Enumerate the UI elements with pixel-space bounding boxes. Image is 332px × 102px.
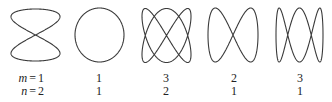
lissajous-curve-m2-n1	[208, 8, 258, 62]
lissajous-curve-m3-n1	[276, 8, 323, 62]
m-value-3: 3	[163, 71, 169, 85]
n-value-5: 1	[297, 84, 303, 98]
curves-group	[11, 8, 323, 63]
labels-group: m=1 n=2 1 1 3 2 2 1 3 1	[19, 71, 303, 98]
n-value-2: 1	[96, 84, 102, 98]
n-value-3: 2	[163, 84, 169, 98]
m-value-5: 3	[297, 71, 303, 85]
lissajous-figures: m=1 n=2 1 1 3 2 2 1 3 1	[0, 0, 332, 102]
m-value-4: 2	[231, 71, 237, 85]
n-value-4: 1	[231, 84, 237, 98]
lissajous-curve-m1-n1	[75, 8, 124, 62]
lissajous-curve-m1-n2	[11, 9, 60, 61]
m-label-row-1: m=1	[19, 71, 44, 85]
m-value-2: 1	[96, 71, 102, 85]
lissajous-curve-m3-n2	[142, 9, 191, 63]
n-label-row-1: n=2	[21, 84, 44, 98]
